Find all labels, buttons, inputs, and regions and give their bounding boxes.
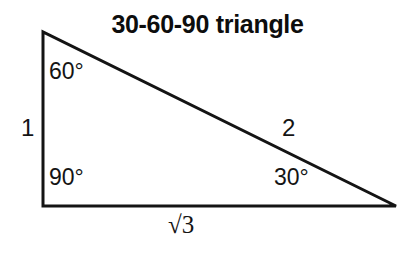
page-title: 30-60-90 triangle bbox=[0, 10, 415, 39]
angle-label-30: 30° bbox=[274, 166, 309, 189]
triangle-shape bbox=[43, 32, 396, 206]
angle-label-90: 90° bbox=[49, 166, 84, 189]
side-label-vertical: 1 bbox=[21, 116, 34, 140]
triangle-figure-canvas: 30-60-90 triangle 60° 1 90° 2 30° √3 bbox=[0, 0, 415, 258]
side-label-horizontal: √3 bbox=[168, 212, 194, 237]
side-label-hypotenuse: 2 bbox=[282, 116, 295, 140]
angle-label-60: 60° bbox=[49, 60, 84, 83]
